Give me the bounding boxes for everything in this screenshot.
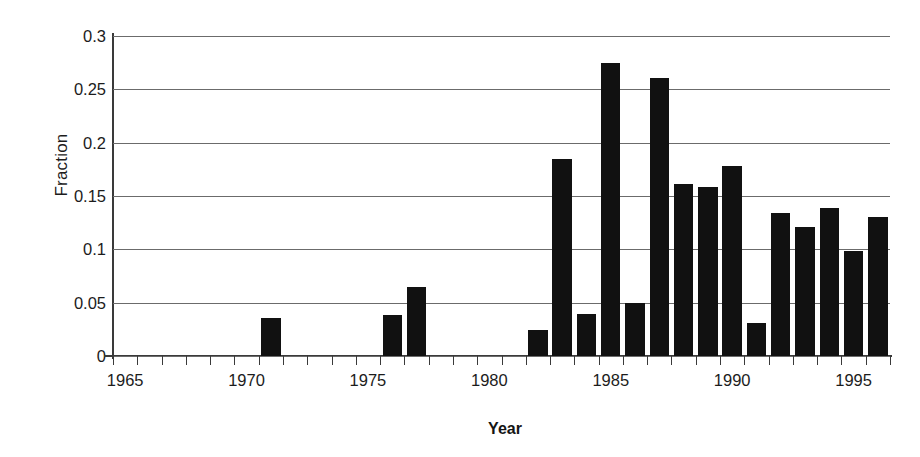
x-tick-label: 1970 — [212, 371, 282, 390]
x-tick-mark — [259, 356, 260, 365]
x-tick-mark — [429, 356, 430, 365]
y-tick-label: 0.25 — [42, 80, 106, 99]
x-tick-mark — [550, 356, 551, 365]
bar — [528, 330, 547, 356]
x-tick-mark — [502, 356, 503, 365]
x-tick-mark — [769, 356, 770, 365]
bar — [674, 184, 693, 356]
x-tick-mark — [793, 356, 794, 365]
x-tick-mark — [526, 356, 527, 365]
x-tick-mark — [890, 356, 891, 365]
x-tick-mark — [599, 356, 600, 365]
x-tick-mark — [234, 356, 235, 365]
y-tick-label: 0.2 — [42, 133, 106, 152]
bar — [868, 217, 887, 356]
bar — [625, 303, 644, 356]
x-tick-mark — [817, 356, 818, 365]
x-tick-mark — [307, 356, 308, 365]
x-tick-mark — [356, 356, 357, 365]
y-tick-label: 0 — [42, 347, 106, 366]
plot-area — [113, 36, 890, 356]
x-tick-mark — [866, 356, 867, 365]
x-tick-mark — [574, 356, 575, 365]
gridline — [113, 36, 890, 37]
x-tick-mark — [453, 356, 454, 365]
x-tick-mark — [210, 356, 211, 365]
bar — [722, 166, 741, 356]
x-axis-title: Year — [440, 420, 570, 438]
y-tick-label: 0.3 — [42, 27, 106, 46]
x-tick-mark — [647, 356, 648, 365]
x-tick-mark — [671, 356, 672, 365]
x-tick-mark — [186, 356, 187, 365]
bar — [261, 318, 280, 356]
bar-chart: Fraction 00.050.10.150.20.250.3 19651970… — [0, 0, 920, 457]
bar — [747, 323, 766, 356]
bar — [407, 287, 426, 356]
x-tick-label: 1980 — [454, 371, 524, 390]
x-tick-label: 1990 — [697, 371, 767, 390]
bar — [601, 63, 620, 356]
y-tick-label: 0.15 — [42, 187, 106, 206]
bar — [698, 187, 717, 356]
y-tick-label: 0.1 — [42, 240, 106, 259]
bar — [552, 159, 571, 356]
x-tick-mark — [404, 356, 405, 365]
x-tick-mark — [696, 356, 697, 365]
bar — [650, 78, 669, 356]
gridline — [113, 89, 890, 90]
x-tick-mark — [162, 356, 163, 365]
x-tick-mark — [113, 356, 114, 365]
bar — [844, 251, 863, 356]
y-tick-label: 0.05 — [42, 293, 106, 312]
x-tick-label: 1985 — [576, 371, 646, 390]
x-tick-label: 1995 — [819, 371, 889, 390]
bar — [577, 314, 596, 356]
x-tick-mark — [720, 356, 721, 365]
x-tick-mark — [841, 356, 842, 365]
x-tick-label: 1975 — [333, 371, 403, 390]
x-tick-mark — [283, 356, 284, 365]
bar — [820, 208, 839, 356]
x-tick-mark — [623, 356, 624, 365]
x-tick-mark — [380, 356, 381, 365]
x-tick-label: 1965 — [90, 371, 160, 390]
x-tick-mark — [744, 356, 745, 365]
gridline — [113, 196, 890, 197]
x-tick-mark — [477, 356, 478, 365]
x-tick-mark — [137, 356, 138, 365]
x-tick-mark — [332, 356, 333, 365]
gridline — [113, 143, 890, 144]
bar — [383, 315, 402, 356]
bar — [795, 227, 814, 356]
bar — [771, 213, 790, 356]
